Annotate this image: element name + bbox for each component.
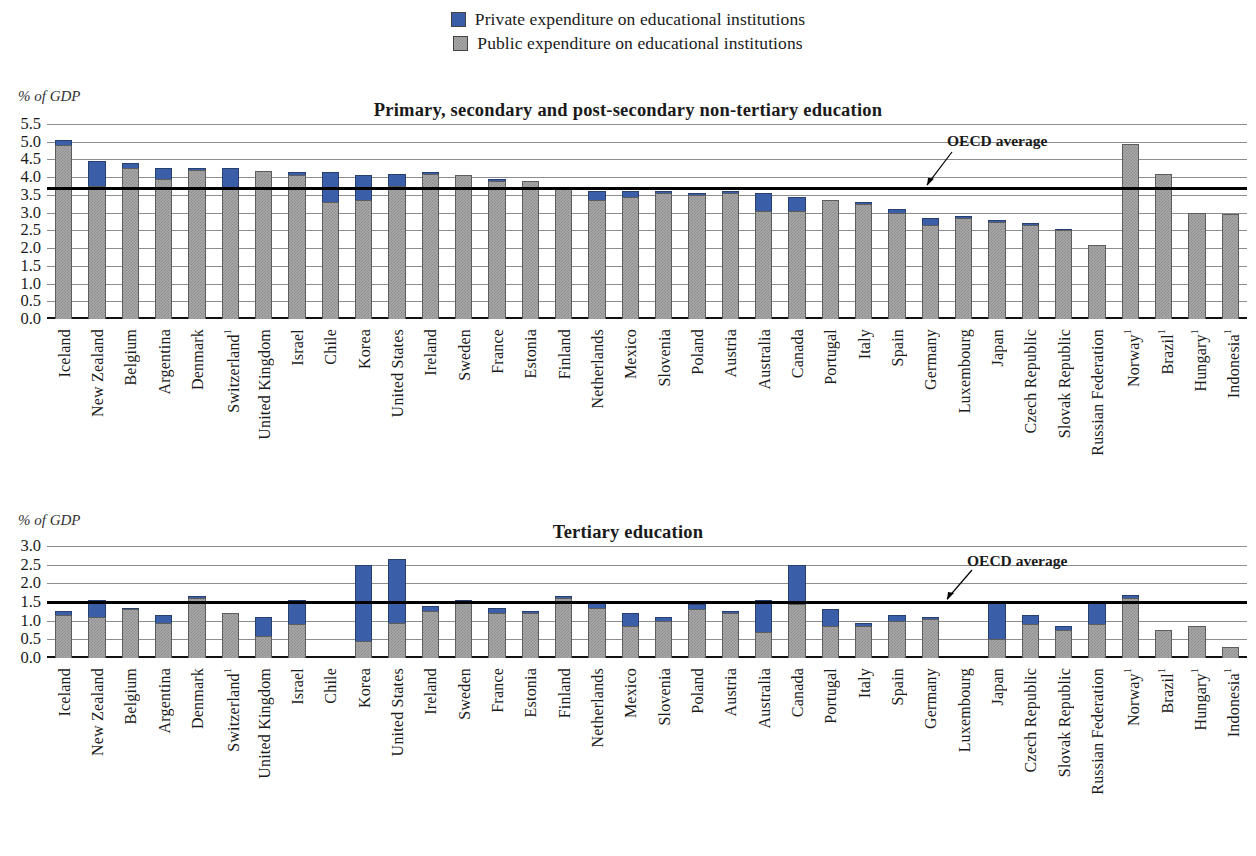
chart-panel-primary-secondary: % of GDP Primary, secondary and post-sec… xyxy=(0,88,1256,498)
x-axis-label: Australia xyxy=(756,329,774,389)
bar-segment-public xyxy=(788,604,805,658)
bar-segment-public xyxy=(922,619,939,658)
bar-segment-public xyxy=(155,179,172,319)
x-axis-label: Portugal xyxy=(822,668,840,724)
x-axis-label: Indonesia1 xyxy=(1222,329,1243,398)
bar-column xyxy=(188,168,205,319)
x-axis-label: United States xyxy=(389,329,407,417)
x-axis-label: Belgium xyxy=(122,668,140,725)
bar-column xyxy=(622,613,639,658)
bar-column xyxy=(1022,223,1039,319)
bar-segment-public xyxy=(888,213,905,319)
bar-segment-public xyxy=(155,623,172,658)
x-axis-label: Brazil1 xyxy=(1156,668,1177,714)
bar-segment-public xyxy=(1055,630,1072,658)
bar-segment-public xyxy=(1022,225,1039,319)
x-axis-label: France xyxy=(489,329,507,374)
x-axis-label: Hungary1 xyxy=(1189,668,1210,731)
x-axis-label: Spain xyxy=(889,668,907,705)
bar-segment-public xyxy=(422,611,439,658)
bar-column xyxy=(1055,229,1072,319)
bar-segment-public xyxy=(888,621,905,658)
bar-column xyxy=(422,606,439,658)
x-axis-label: Czech Republic xyxy=(1022,329,1040,434)
x-axis-label: Slovak Republic xyxy=(1056,668,1074,777)
bar-segment-public xyxy=(788,211,805,319)
x-axis-label: Norway1 xyxy=(1122,668,1143,726)
bar-column xyxy=(922,617,939,658)
x-axis-label: Sweden xyxy=(456,329,474,381)
bar-segment-public xyxy=(1188,213,1205,319)
y-axis-tick: 1.5 xyxy=(0,594,41,611)
legend-swatch-public-icon xyxy=(453,36,468,51)
bar-segment-public xyxy=(288,175,305,319)
bar-segment-public xyxy=(1222,214,1239,319)
bar-column xyxy=(1122,595,1139,658)
bar-segment-public xyxy=(922,225,939,319)
bar-segment-public xyxy=(1155,630,1172,658)
y-axis-tick: 3.0 xyxy=(0,204,41,221)
y-axis-tick: 5.5 xyxy=(0,116,41,133)
x-axis-label: Russian Federation xyxy=(1089,668,1107,795)
bar-column xyxy=(1188,626,1205,658)
bar-column xyxy=(55,611,72,658)
bar-segment-public xyxy=(122,609,139,658)
x-axis-label: Finland xyxy=(556,668,574,718)
bar-column xyxy=(455,600,472,658)
bar-column xyxy=(422,172,439,319)
y-axis-tick: 4.5 xyxy=(0,151,41,168)
bar-segment-public xyxy=(455,175,472,319)
bar-segment-private xyxy=(822,609,839,626)
bar-segment-public xyxy=(655,193,672,319)
bar-segment-private xyxy=(88,161,105,186)
legend-label-private: Private expenditure on educational insti… xyxy=(475,9,805,30)
bar-segment-public xyxy=(1122,598,1139,658)
bar-column xyxy=(1155,630,1172,658)
x-axis-label: Slovak Republic xyxy=(1056,329,1074,438)
bar-column xyxy=(788,565,805,658)
bar-segment-public xyxy=(388,186,405,319)
x-axis-label: United Kingdom xyxy=(256,329,274,440)
bar-column xyxy=(388,174,405,319)
bar-column xyxy=(1155,174,1172,319)
bar-segment-public xyxy=(355,641,372,658)
bar-column xyxy=(688,604,705,658)
x-axis-label: Belgium xyxy=(122,329,140,386)
y-axis-tick: 3.5 xyxy=(0,187,41,204)
bar-segment-private xyxy=(1088,602,1105,624)
x-axis-label: Korea xyxy=(356,668,374,708)
bar-column xyxy=(522,611,539,658)
bar-segment-public xyxy=(255,636,272,658)
bar-segment-public xyxy=(322,202,339,319)
plot-area-top: 0.00.51.01.52.02.53.03.54.04.55.05.5OECD… xyxy=(47,124,1247,319)
bar-column xyxy=(555,596,572,658)
bar-column xyxy=(588,191,605,319)
bar-segment-public xyxy=(222,188,239,319)
x-axis-label: Norway1 xyxy=(1122,329,1143,387)
x-axis-label: Ireland xyxy=(422,668,440,715)
bar-segment-public xyxy=(1155,174,1172,319)
bar-segment-public xyxy=(222,613,239,658)
x-axis-label: Germany xyxy=(922,668,940,729)
x-axis-label: Netherlands xyxy=(589,329,607,409)
bar-column xyxy=(1222,214,1239,319)
bar-column xyxy=(488,179,505,319)
bar-segment-public xyxy=(722,613,739,658)
bar-column xyxy=(755,600,772,658)
bar-column xyxy=(155,168,172,319)
oecd-average-annotation: OECD average xyxy=(947,132,1047,150)
gridline xyxy=(47,159,1247,160)
bar-column xyxy=(455,175,472,319)
x-axis-label: Argentina xyxy=(156,329,174,395)
bar-segment-public xyxy=(88,617,105,658)
legend-label-public: Public expenditure on educational instit… xyxy=(477,33,802,54)
x-axis-label: Korea xyxy=(356,329,374,369)
x-axis-label: Indonesia1 xyxy=(1222,668,1243,737)
bar-segment-public xyxy=(855,626,872,658)
x-axis-label: Netherlands xyxy=(589,668,607,748)
bar-column xyxy=(1088,245,1105,319)
bar-segment-private xyxy=(222,168,239,188)
bar-segment-private xyxy=(788,565,805,604)
bar-column xyxy=(322,172,339,319)
bar-column xyxy=(655,191,672,319)
